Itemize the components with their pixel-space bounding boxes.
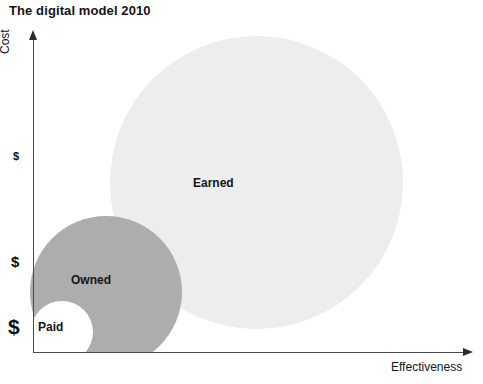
x-axis-label: Effectiveness [391, 360, 462, 374]
y-axis-line [33, 38, 34, 352]
cost-tick-high: $ [8, 316, 20, 337]
x-axis-arrow-icon [463, 348, 473, 356]
bubble-label-paid: Paid [38, 320, 63, 334]
digital-model-diagram: The digital model 2010 Earned Owned Paid… [0, 0, 483, 384]
bubble-label-earned: Earned [193, 176, 234, 190]
cost-tick-medium: $ [11, 254, 19, 269]
cost-tick-low: $ [13, 151, 19, 162]
y-axis-arrow-icon [29, 30, 37, 40]
y-axis-label: Cost [0, 29, 12, 54]
x-axis-line [33, 352, 465, 353]
plot-area: Earned Owned Paid [0, 0, 483, 352]
bubble-label-owned: Owned [71, 273, 111, 287]
